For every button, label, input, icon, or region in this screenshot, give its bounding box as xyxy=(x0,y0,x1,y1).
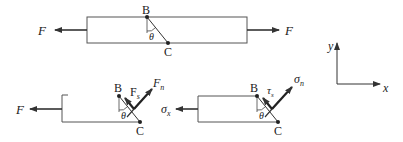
bar-outline xyxy=(87,17,247,43)
stress-diagram: F F B C θ F B C θ Fs Fn σx xyxy=(0,0,403,142)
left-section: F B C θ Fs Fn xyxy=(15,76,164,138)
y-axis-label: y xyxy=(327,39,334,53)
applied-force-label: F xyxy=(15,102,25,117)
shear-force-label: Fs xyxy=(130,85,140,101)
angle-label: θ xyxy=(149,31,154,42)
angle-label: θ xyxy=(259,110,264,121)
point-c-label: C xyxy=(164,45,172,59)
coordinate-axes: y x xyxy=(327,39,389,95)
normal-force-label: Fn xyxy=(152,76,164,92)
shear-stress-label: τs xyxy=(267,84,274,99)
x-axis-label: x xyxy=(382,81,389,95)
left-force-label: F xyxy=(37,23,47,38)
point-c-label: C xyxy=(274,124,282,138)
point-b-label: B xyxy=(250,81,258,95)
normal-stress-arrow xyxy=(272,87,292,109)
applied-stress-label: σx xyxy=(161,102,171,118)
right-force-label: F xyxy=(284,23,294,38)
point-b-label: B xyxy=(142,3,150,17)
top-bar: F F B C θ xyxy=(37,3,294,59)
right-section: σx B C θ τs σn xyxy=(161,72,304,138)
point-b-label: B xyxy=(114,81,122,95)
angle-label: θ xyxy=(121,110,126,121)
normal-stress-label: σn xyxy=(294,72,304,88)
point-c-label: C xyxy=(136,124,144,138)
